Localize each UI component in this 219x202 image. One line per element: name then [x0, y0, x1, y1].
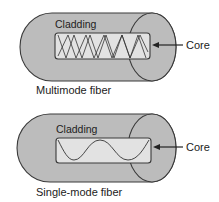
fiber-diagram: Cladding Core Multimode fiber Cladding C… [0, 0, 219, 202]
multimode-core-label: Core [186, 39, 210, 51]
single-mode-fiber: Cladding Core Single-mode fiber [17, 114, 210, 198]
single-mode-cladding-label: Cladding [56, 123, 98, 135]
multimode-fiber: Cladding Core Multimode fiber [20, 13, 210, 96]
single-mode-core-label: Core [186, 141, 210, 153]
single-mode-title: Single-mode fiber [36, 186, 123, 198]
multimode-cladding-label: Cladding [55, 18, 97, 30]
multimode-title: Multimode fiber [36, 84, 112, 96]
